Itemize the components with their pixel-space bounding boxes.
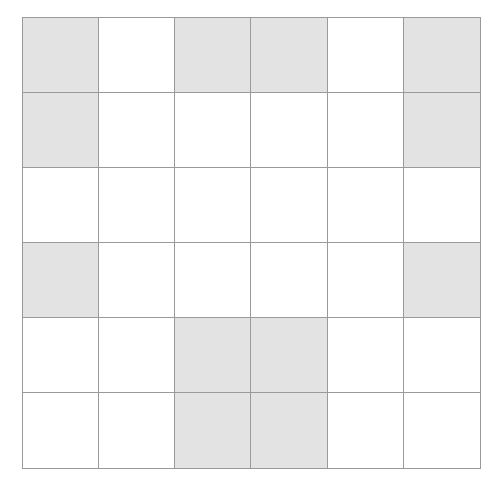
empty-cell-r5-c1 bbox=[99, 393, 175, 468]
shaded-cell-r4-c3 bbox=[251, 318, 327, 393]
empty-cell-r5-c4 bbox=[328, 393, 404, 468]
shaded-cell-r0-c5 bbox=[404, 18, 480, 93]
shaded-cell-r5-c2 bbox=[175, 393, 251, 468]
shaded-cell-r1-c5 bbox=[404, 93, 480, 168]
empty-cell-r4-c1 bbox=[99, 318, 175, 393]
shaded-cell-r3-c0 bbox=[23, 243, 99, 318]
empty-cell-r4-c5 bbox=[404, 318, 480, 393]
empty-cell-r4-c4 bbox=[328, 318, 404, 393]
empty-cell-r1-c1 bbox=[99, 93, 175, 168]
shaded-cell-r5-c3 bbox=[251, 393, 327, 468]
empty-cell-r3-c2 bbox=[175, 243, 251, 318]
shaded-cell-r3-c5 bbox=[404, 243, 480, 318]
empty-cell-r2-c4 bbox=[328, 168, 404, 243]
shaded-cell-r0-c0 bbox=[23, 18, 99, 93]
empty-cell-r2-c3 bbox=[251, 168, 327, 243]
empty-cell-r2-c2 bbox=[175, 168, 251, 243]
empty-cell-r1-c2 bbox=[175, 93, 251, 168]
empty-cell-r2-c5 bbox=[404, 168, 480, 243]
empty-cell-r3-c3 bbox=[251, 243, 327, 318]
shaded-cell-r1-c0 bbox=[23, 93, 99, 168]
shaded-cell-r0-c2 bbox=[175, 18, 251, 93]
empty-cell-r0-c1 bbox=[99, 18, 175, 93]
empty-cell-r2-c1 bbox=[99, 168, 175, 243]
empty-cell-r5-c0 bbox=[23, 393, 99, 468]
empty-cell-r3-c1 bbox=[99, 243, 175, 318]
shaded-grid bbox=[22, 17, 481, 469]
empty-cell-r3-c4 bbox=[328, 243, 404, 318]
empty-cell-r1-c4 bbox=[328, 93, 404, 168]
empty-cell-r0-c4 bbox=[328, 18, 404, 93]
empty-cell-r4-c0 bbox=[23, 318, 99, 393]
empty-cell-r1-c3 bbox=[251, 93, 327, 168]
shaded-cell-r4-c2 bbox=[175, 318, 251, 393]
empty-cell-r2-c0 bbox=[23, 168, 99, 243]
empty-cell-r5-c5 bbox=[404, 393, 480, 468]
shaded-cell-r0-c3 bbox=[251, 18, 327, 93]
